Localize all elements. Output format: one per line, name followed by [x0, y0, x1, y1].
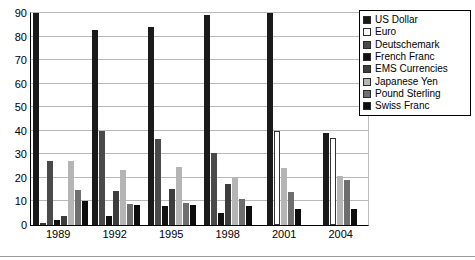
bar — [148, 27, 154, 225]
bar — [232, 177, 238, 225]
bar — [274, 131, 280, 225]
bar — [54, 220, 60, 225]
bar — [267, 13, 273, 225]
bar — [281, 168, 287, 225]
bar — [113, 191, 119, 225]
x-axis-tick-label: 1995 — [143, 228, 200, 240]
legend-item-label: Pound Sterling — [375, 89, 441, 99]
y-axis-tick-label: 90 — [15, 8, 27, 19]
legend-swatch-icon — [363, 102, 371, 110]
bar-group — [200, 13, 256, 225]
x-axis-tick-label: 2004 — [313, 228, 370, 240]
bar — [169, 189, 175, 226]
bar — [204, 15, 210, 225]
bar — [190, 205, 196, 225]
bar — [225, 184, 231, 225]
bar — [106, 216, 112, 225]
x-axis-labels: 198919921995199820012004 — [30, 228, 369, 240]
bar — [239, 199, 245, 225]
legend-item-label: French Franc — [375, 52, 434, 62]
legend-item[interactable]: Deutschemark — [363, 39, 466, 51]
bar — [176, 167, 182, 225]
x-axis-tick-label: 1989 — [30, 228, 87, 240]
legend-item[interactable]: Japanese Yen — [363, 75, 466, 87]
bar — [155, 139, 161, 225]
legend-item-label: Japanese Yen — [375, 77, 438, 87]
x-axis-tick-label: 1992 — [87, 228, 144, 240]
bar — [47, 161, 53, 225]
bar-chart: 0102030405060708090 19891992199519982001… — [0, 0, 475, 260]
x-axis-tick-label: 1998 — [200, 228, 257, 240]
legend-item-label: Euro — [375, 27, 396, 37]
bar — [33, 13, 39, 225]
legend-swatch-icon — [363, 28, 371, 36]
bar — [127, 204, 133, 225]
bar — [183, 203, 189, 225]
bar — [351, 209, 357, 225]
bar — [330, 138, 336, 225]
y-axis-tick-label: 0 — [21, 220, 27, 231]
y-axis-tick-label: 30 — [15, 149, 27, 160]
bar — [211, 153, 217, 225]
legend-item[interactable]: US Dollar — [363, 14, 466, 26]
bar — [61, 216, 67, 225]
bar — [134, 205, 140, 225]
legend-item[interactable]: Pound Sterling — [363, 88, 466, 100]
y-axis-tick-label: 60 — [15, 78, 27, 89]
legend-item[interactable]: French Franc — [363, 51, 466, 63]
legend-item[interactable]: Euro — [363, 26, 466, 38]
legend-item-label: US Dollar — [375, 15, 418, 25]
bar — [246, 206, 252, 225]
legend-swatch-icon — [363, 65, 371, 73]
legend-swatch-icon — [363, 41, 371, 49]
bar-group — [256, 13, 312, 225]
y-axis-tick-label: 10 — [15, 196, 27, 207]
legend-item[interactable]: Swiss Franc — [363, 100, 466, 112]
bar-groups — [32, 13, 368, 225]
bottom-divider — [0, 256, 475, 257]
bar-group — [88, 13, 144, 225]
y-axis-tick-label: 40 — [15, 125, 27, 136]
x-axis-tick-label: 2001 — [256, 228, 313, 240]
bar — [92, 30, 98, 226]
bar — [68, 161, 74, 225]
y-axis-tick-label: 50 — [15, 102, 27, 113]
bar — [218, 213, 224, 225]
bar — [120, 170, 126, 225]
bar — [295, 209, 301, 225]
bar-group — [32, 13, 88, 225]
y-axis-tick-label: 70 — [15, 55, 27, 66]
bar — [323, 133, 329, 225]
bar — [75, 190, 81, 225]
legend-swatch-icon — [363, 53, 371, 61]
chart-legend: US DollarEuroDeutschemarkFrench FrancEMS… — [359, 10, 471, 116]
bar — [337, 176, 343, 225]
plot-area: 0102030405060708090 — [30, 12, 369, 226]
legend-item-label: Swiss Franc — [375, 101, 429, 111]
legend-item[interactable]: EMS Currencies — [363, 63, 466, 75]
y-axis-tick-label: 20 — [15, 172, 27, 183]
legend-swatch-icon — [363, 78, 371, 86]
bar-group — [144, 13, 200, 225]
bar — [344, 180, 350, 225]
bar — [82, 201, 88, 225]
legend-swatch-icon — [363, 16, 371, 24]
y-axis-tick-label: 80 — [15, 31, 27, 42]
legend-item-label: Deutschemark — [375, 40, 439, 50]
bar — [288, 192, 294, 225]
legend-swatch-icon — [363, 90, 371, 98]
bar — [162, 206, 168, 225]
legend-item-label: EMS Currencies — [375, 64, 448, 74]
bar — [40, 223, 46, 225]
bar — [99, 131, 105, 225]
